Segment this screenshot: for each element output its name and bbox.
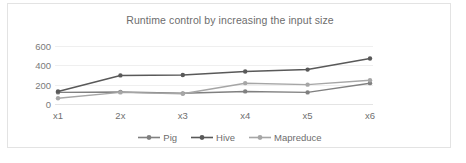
x-axis-tick-1: 2x xyxy=(115,110,125,121)
chart-title: Runtime control by increasing the input … xyxy=(8,14,452,26)
x-axis-tick-5: x6 xyxy=(365,110,375,121)
legend-item-pig[interactable]: Pig xyxy=(138,132,177,143)
x-axis-tick-3: x4 xyxy=(240,110,250,121)
series-line-mapreduce xyxy=(58,80,370,98)
data-point xyxy=(118,73,122,77)
y-axis-tick-0: 0 xyxy=(9,99,51,110)
data-point xyxy=(305,67,309,71)
x-axis-labels: x12xx3x4x5x6 xyxy=(55,110,373,124)
x-axis-tick-2: x3 xyxy=(178,110,188,121)
legend-item-mapreduce[interactable]: Mapreduce xyxy=(249,132,322,143)
legend-label: Mapreduce xyxy=(274,132,322,143)
axis-line-zero xyxy=(55,104,373,105)
data-point xyxy=(305,90,309,94)
legend-item-hive[interactable]: Hive xyxy=(191,132,235,143)
y-axis-labels: 0200400600 xyxy=(8,42,51,104)
y-axis-tick-2: 400 xyxy=(9,60,51,71)
legend-marker-icon xyxy=(138,133,160,142)
chart-container: Runtime control by increasing the input … xyxy=(7,3,451,148)
chart-legend: PigHiveMapreduce xyxy=(8,132,452,143)
data-point xyxy=(181,73,185,77)
data-point xyxy=(118,90,122,94)
data-point xyxy=(181,92,185,96)
y-axis-tick-1: 200 xyxy=(9,79,51,90)
x-axis-tick-0: x1 xyxy=(53,110,63,121)
legend-marker-icon xyxy=(249,133,271,142)
legend-label: Hive xyxy=(216,132,235,143)
y-axis-tick-3: 600 xyxy=(9,40,51,51)
chart-series-layer xyxy=(55,42,373,104)
data-point xyxy=(243,81,247,85)
x-axis-tick-4: x5 xyxy=(303,110,313,121)
data-point xyxy=(243,89,247,93)
series-line-hive xyxy=(58,58,370,91)
legend-label: Pig xyxy=(163,132,177,143)
legend-marker-icon xyxy=(191,133,213,142)
data-point xyxy=(243,69,247,73)
data-point xyxy=(368,78,372,82)
data-point xyxy=(56,89,60,93)
data-point xyxy=(368,56,372,60)
data-point xyxy=(56,96,60,100)
data-point xyxy=(305,82,309,86)
